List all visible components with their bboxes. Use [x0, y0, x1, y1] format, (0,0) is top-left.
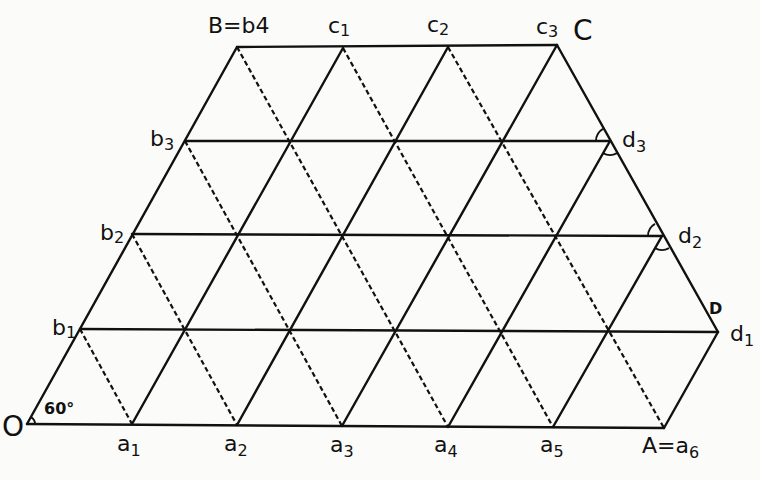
label-d1: d1 [730, 321, 754, 350]
label-a1: a1 [117, 431, 141, 460]
label-O: O [2, 410, 24, 443]
angle-arc-d3-lower [603, 153, 617, 155]
label-A: A=a6 [642, 433, 699, 462]
label-a3: a3 [330, 432, 354, 461]
label-C: C [573, 14, 593, 47]
label-a4: a4 [434, 432, 458, 461]
angle-arc-d2-upper [648, 224, 655, 236]
angle-marks [31, 129, 669, 424]
horizontal-line-O-A [27, 424, 664, 428]
horizontal-line-B-C [237, 45, 557, 47]
lattice-lines [27, 45, 718, 428]
label-b2: b2 [100, 220, 124, 247]
dashed-line-b3-a3 [185, 141, 342, 426]
label-b3: b3 [150, 126, 174, 154]
angle-arc-d3-upper [596, 129, 603, 141]
label-a5: a5 [540, 432, 564, 461]
angle-label: 60° [44, 399, 74, 418]
label-c2: c2 [427, 12, 449, 39]
label-d3: d3 [622, 127, 646, 156]
angle-arc-d2-lower [655, 248, 669, 250]
triangular-lattice-diagram: O 60° a1 a2 a3 a4 a5 A=a6 b1 b2 b3 B=b4 … [0, 0, 760, 480]
horizontal-line-b2-d2 [132, 234, 662, 236]
diagram-canvas: O 60° a1 a2 a3 a4 a5 A=a6 b1 b2 b3 B=b4 … [0, 0, 760, 480]
label-B: B=b4 [208, 13, 270, 38]
label-c3: c3 [536, 14, 558, 41]
rising-line-A-d1 [664, 332, 718, 428]
label-D: D [709, 299, 722, 318]
edge-line-C-d1 [557, 45, 718, 332]
label-a2: a2 [224, 431, 248, 460]
dashed-line-b1-a1 [80, 329, 132, 424]
horizontal-line-b1-d1 [80, 329, 718, 332]
label-b1: b1 [52, 315, 76, 342]
label-c1: c1 [328, 13, 350, 40]
label-d2: d2 [678, 223, 702, 252]
